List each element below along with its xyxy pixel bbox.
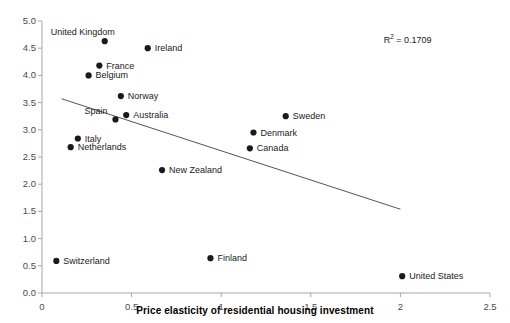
y-tick-label: 0.5 — [2, 261, 36, 271]
data-point-marker — [112, 116, 118, 122]
y-tick-label: 3.5 — [2, 98, 36, 108]
data-point-marker — [283, 113, 289, 119]
y-tick-label: 2.5 — [2, 152, 36, 162]
data-point-marker — [145, 45, 151, 51]
y-tick-label: 4.0 — [2, 70, 36, 80]
trendline-segment — [62, 99, 401, 209]
data-point-marker — [53, 258, 59, 264]
data-point-label: New Zealand — [169, 166, 222, 175]
y-tick-label: 1.5 — [2, 206, 36, 216]
y-tick-label: 5.0 — [2, 16, 36, 26]
data-point-label: Canada — [257, 144, 289, 153]
data-point-label: Finland — [217, 254, 247, 263]
data-point-marker — [118, 93, 124, 99]
y-tick-label: 1.0 — [2, 234, 36, 244]
data-point-label: Denmark — [260, 129, 297, 138]
data-point-label: Australia — [133, 111, 168, 120]
data-point-marker — [247, 145, 253, 151]
data-point-marker — [207, 255, 213, 261]
data-point-marker — [96, 63, 102, 69]
trendline — [62, 99, 401, 209]
data-point-marker — [75, 135, 81, 141]
data-point-label: Sweden — [293, 112, 326, 121]
data-point-marker — [102, 38, 108, 44]
data-point-label: Switzerland — [63, 257, 110, 266]
data-point-marker — [250, 129, 256, 135]
data-point-label: Spain — [84, 107, 107, 116]
data-point-label: Ireland — [155, 44, 183, 53]
data-point-marker — [159, 167, 165, 173]
data-point-marker — [68, 144, 74, 150]
data-point-label: Norway — [128, 92, 159, 101]
r-squared-annotation: R2 = 0.1709 — [384, 33, 432, 45]
data-point-marker — [399, 273, 405, 279]
data-point-label: Belgium — [96, 71, 129, 80]
y-tick-label: 2.0 — [2, 179, 36, 189]
y-tick-label: 3.0 — [2, 125, 36, 135]
data-point-marker — [123, 112, 129, 118]
data-point-label: United Kingdom — [51, 28, 115, 37]
data-point-label: United States — [409, 272, 463, 281]
scatter-chart: United KingdomIrelandFranceBelgiumNorway… — [0, 0, 510, 323]
y-tick-label: 0.0 — [2, 288, 36, 298]
x-axis-title: Price elasticity of residential housing … — [0, 305, 510, 316]
data-point-label: France — [106, 62, 134, 71]
data-point-label: Netherlands — [78, 143, 127, 152]
y-tick-label: 4.5 — [2, 43, 36, 53]
data-point-marker — [85, 72, 91, 78]
